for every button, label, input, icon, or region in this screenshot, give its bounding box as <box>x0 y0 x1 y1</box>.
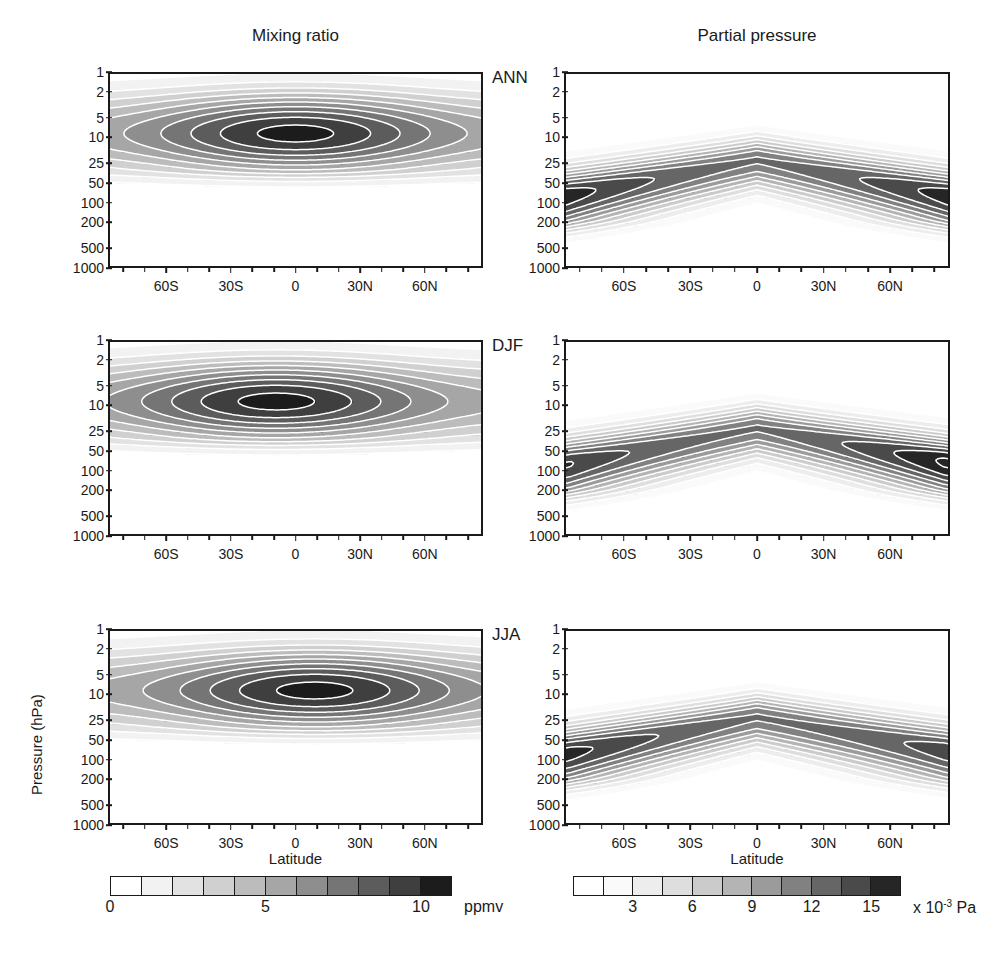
x-tick-mark-minor <box>467 268 469 272</box>
x-tick-label: 60S <box>611 546 636 562</box>
y-tick-label: 1000 <box>73 817 104 833</box>
y-tick-mark <box>562 137 568 139</box>
x-tick-mark-minor <box>667 536 669 540</box>
x-tick-mark-minor <box>579 825 581 829</box>
figure-root: Mixing ratio Partial pressure Pressure (… <box>0 0 1000 964</box>
colorbar-segment <box>604 877 634 895</box>
y-tick-label: 1000 <box>529 260 560 276</box>
y-tick-mark <box>562 182 568 184</box>
y-tick-mark <box>106 202 112 204</box>
x-tick-label: 30S <box>218 835 243 851</box>
x-tick-label: 30S <box>678 835 703 851</box>
y-tick-label: 500 <box>537 240 560 256</box>
x-tick-label: 60S <box>154 835 179 851</box>
y-tick-label: 1000 <box>73 260 104 276</box>
x-tick-label: 30S <box>218 546 243 562</box>
colorbar-tick-label: 5 <box>261 898 270 916</box>
y-tick-mark <box>106 628 112 630</box>
y-tick-label: 1000 <box>73 528 104 544</box>
x-tick-label: 30S <box>218 278 243 294</box>
y-tick-label: 200 <box>537 771 560 787</box>
x-tick-mark-minor <box>734 536 736 540</box>
y-tick-mark <box>106 674 112 676</box>
y-axis-jja-partial-pressure: 1251025501002005001000 <box>510 629 560 825</box>
x-tick-mark <box>889 825 891 830</box>
x-tick-mark <box>230 825 232 830</box>
y-tick-label: 10 <box>88 686 104 702</box>
x-tick-mark <box>623 536 625 541</box>
x-tick-mark-minor <box>402 536 404 540</box>
x-tick-mark-minor <box>252 825 254 829</box>
panel-jja-mixing-ratio <box>108 629 483 825</box>
x-tick-mark-minor <box>734 268 736 272</box>
x-tick-mark-minor <box>667 268 669 272</box>
y-tick-mark <box>562 248 568 250</box>
x-axis-title-mixing-ratio: Latitude <box>108 850 483 867</box>
column-title-mixing-ratio: Mixing ratio <box>108 26 483 46</box>
unit-suffix: Pa <box>957 899 977 916</box>
x-tick-mark <box>756 268 758 273</box>
y-tick-label: 10 <box>544 129 560 145</box>
x-tick-mark-minor <box>273 825 275 829</box>
y-tick-mark <box>106 450 112 452</box>
x-tick-mark-minor <box>446 825 448 829</box>
y-tick-label: 50 <box>88 175 104 191</box>
x-tick-mark-minor <box>316 536 318 540</box>
y-tick-mark <box>562 222 568 224</box>
x-tick-mark <box>623 825 625 830</box>
y-tick-label: 500 <box>81 797 104 813</box>
x-tick-mark <box>359 536 361 541</box>
x-tick-label: 0 <box>292 546 300 562</box>
colorbar-segment <box>633 877 663 895</box>
y-tick-label: 5 <box>96 378 104 394</box>
x-tick-mark-minor <box>144 536 146 540</box>
y-tick-mark <box>562 385 568 387</box>
y-tick-label: 200 <box>81 482 104 498</box>
y-tick-mark <box>562 694 568 696</box>
y-tick-label: 25 <box>88 155 104 171</box>
x-tick-mark-minor <box>381 536 383 540</box>
x-tick-mark-minor <box>187 825 189 829</box>
column-title-text: Partial pressure <box>697 26 816 45</box>
x-tick-mark-minor <box>734 825 736 829</box>
x-tick-mark-minor <box>911 536 913 540</box>
y-axis-ann-mixing-ratio: 1251025501002005001000 <box>54 72 104 268</box>
x-tick-mark-minor <box>122 536 124 540</box>
colorbar-segment <box>390 877 421 895</box>
y-tick-mark <box>106 470 112 472</box>
y-tick-label: 10 <box>544 686 560 702</box>
y-tick-mark <box>562 202 568 204</box>
y-tick-label: 50 <box>88 443 104 459</box>
x-tick-mark-minor <box>911 268 913 272</box>
y-tick-mark <box>562 431 568 433</box>
x-tick-mark-minor <box>712 268 714 272</box>
y-tick-mark <box>106 759 112 761</box>
x-tick-mark-minor <box>801 536 803 540</box>
colorbar-tick-label: 3 <box>628 898 637 916</box>
mixing-ratio-colorbar <box>110 876 452 896</box>
x-tick-mark-minor <box>712 536 714 540</box>
y-tick-label: 100 <box>81 463 104 479</box>
y-tick-mark <box>562 628 568 630</box>
y-tick-label: 5 <box>96 667 104 683</box>
x-tick-mark <box>230 268 232 273</box>
x-tick-mark-minor <box>144 825 146 829</box>
x-tick-label: 30N <box>811 546 837 562</box>
y-tick-mark <box>106 359 112 361</box>
colorbar-tick-label: 6 <box>688 898 697 916</box>
column-title-partial-pressure: Partial pressure <box>564 26 950 46</box>
colorbar-segment <box>723 877 753 895</box>
x-tick-mark-minor <box>122 268 124 272</box>
x-tick-mark <box>823 268 825 273</box>
x-tick-mark-minor <box>446 536 448 540</box>
y-tick-label: 2 <box>552 641 560 657</box>
x-tick-mark-minor <box>467 536 469 540</box>
colorbar-unit-label: ppmv <box>464 898 503 916</box>
y-tick-label: 1000 <box>529 817 560 833</box>
x-tick-label: 30N <box>347 835 373 851</box>
panel-djf-partial-pressure <box>564 340 950 536</box>
x-tick-mark-minor <box>667 825 669 829</box>
y-tick-label: 100 <box>81 195 104 211</box>
y-tick-label: 500 <box>81 240 104 256</box>
x-tick-label: 0 <box>753 278 761 294</box>
